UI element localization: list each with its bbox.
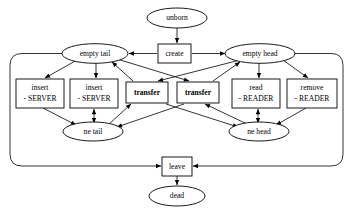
node-ne-head-label: ne head [247,127,271,136]
node-create[interactable]: create [158,44,191,63]
node-insert-server-1[interactable]: insert - SERVER [16,79,64,108]
node-ne-tail-label: ne tail [84,127,103,136]
node-empty-head[interactable]: empty head [225,44,295,64]
node-read-reader[interactable]: read - READER [232,79,280,108]
node-insert-server-1-line2: - SERVER [24,94,58,103]
edge-empty-tail-insert1 [45,60,77,78]
node-remove-reader-line2: - READER [295,94,331,103]
node-empty-head-label: empty head [242,49,277,58]
node-unborn-label: unborn [166,13,188,22]
edge-empty-head-remove [283,60,308,78]
node-ne-tail[interactable]: ne tail [63,122,123,141]
node-create-label: create [165,49,184,58]
node-insert-server-2-line2: - SERVER [78,94,112,103]
edge-empty-tail-leave-loop [10,54,161,167]
node-dead-label: dead [170,191,185,200]
node-leave[interactable]: leave [162,157,192,176]
state-diagram: unborn empty tail create empty head inse… [0,0,353,213]
edge-transfer1-empty-tail [112,62,133,81]
node-dead[interactable]: dead [149,186,205,206]
diagram-canvas: unborn empty tail create empty head inse… [0,0,353,213]
node-remove-reader[interactable]: remove - READER [287,79,337,108]
edge-remove-ne-head [276,108,306,125]
edge-insert1-ne-tail [43,108,76,125]
edge-transfer1-ne-head [166,104,238,127]
node-insert-server-2[interactable]: insert - SERVER [70,79,118,108]
node-transfer-2-label: transfer [185,88,212,97]
node-ne-head[interactable]: ne head [229,122,289,141]
node-empty-tail-label: empty tail [80,49,111,58]
node-transfer-2[interactable]: transfer [177,82,219,103]
node-read-reader-line2: - READER [239,94,275,103]
node-empty-tail[interactable]: empty tail [62,44,128,64]
node-unborn[interactable]: unborn [147,8,207,28]
node-remove-reader-line1: remove [301,83,324,92]
node-transfer-1[interactable]: transfer [126,82,168,103]
edge-transfer2-empty-head [213,62,240,81]
node-read-reader-line1: read [249,83,262,92]
node-insert-server-2-line1: insert [86,83,104,92]
node-transfer-1-label: transfer [134,88,161,97]
node-leave-label: leave [169,162,186,171]
node-insert-server-1-line1: insert [32,83,50,92]
edge-empty-head-leave-loop [193,54,343,167]
